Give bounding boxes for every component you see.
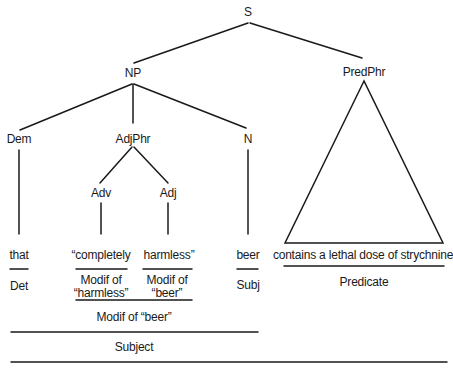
edge-np-dem (20, 84, 132, 130)
function-modif-of-beer: Modif of “beer” (96, 311, 171, 324)
node-adjphr: AdjPhr (116, 133, 151, 146)
function-subject: Subject (115, 341, 154, 354)
leaf-beer: beer (236, 249, 259, 262)
function-det: Det (10, 280, 28, 293)
function-predicate: Predicate (340, 276, 389, 289)
leaf-harmless: harmless” (144, 249, 195, 262)
predphr-triangle (285, 81, 443, 243)
function-subj: Subj (236, 279, 259, 292)
node-predphr: PredPhr (343, 66, 386, 79)
node-s: S (244, 6, 252, 19)
leaf-that: that (9, 249, 28, 262)
function-modif-of-harmless: Modif of “harmless” (74, 274, 129, 300)
function-modif-of-beer-adj: Modif of “beer” (146, 274, 187, 300)
node-adj: Adj (160, 187, 177, 200)
leaf-predicate-phrase: contains a lethal dose of strychnine (273, 249, 453, 262)
edge-s-predphr (250, 23, 362, 58)
edge-adjphr-adj (134, 147, 168, 183)
leaf-completely: “completely (71, 249, 130, 262)
node-n: N (244, 133, 252, 146)
node-adv: Adv (91, 187, 111, 200)
function-modif-of-beer-adj-line2: “beer” (146, 287, 187, 300)
edge-s-np (134, 23, 248, 63)
function-modif-of-harmless-line2: “harmless” (74, 287, 129, 300)
edge-adjphr-adv (100, 147, 132, 183)
edge-np-n (134, 84, 246, 128)
node-np: NP (125, 67, 141, 80)
node-dem: Dem (7, 133, 32, 146)
